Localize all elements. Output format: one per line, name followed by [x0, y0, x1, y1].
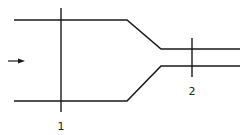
pipe-top-wall — [14, 20, 240, 49]
pipe-drawing — [0, 0, 249, 135]
section-2-label: 2 — [189, 85, 196, 98]
flow-arrow-icon — [8, 59, 25, 64]
pipe-diagram: 1 2 — [0, 0, 249, 135]
pipe-bottom-wall — [14, 66, 240, 101]
section-1-label: 1 — [58, 120, 65, 133]
